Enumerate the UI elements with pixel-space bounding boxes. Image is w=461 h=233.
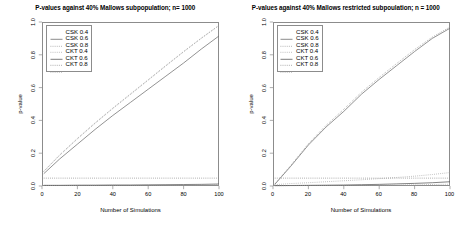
legend-right: CSK 0.4CSK 0.6CSK 0.8CKT 0.4CKT 0.6CKT 0… (277, 25, 323, 72)
x-tick-label: 0 (271, 191, 274, 197)
y-tick-label: 1.0 (30, 18, 36, 26)
x-tick-label: 20 (305, 191, 311, 197)
y-tick-label: 0.6 (261, 84, 267, 92)
x-tick-label: 100 (214, 191, 223, 197)
legend-line-sample (280, 48, 293, 55)
y-tick-label: 0.4 (30, 117, 36, 125)
y-tick-label: 0.8 (261, 51, 267, 59)
legend-line-sample (280, 61, 293, 68)
legend-label: CKT 0.8 (296, 61, 318, 68)
legend-line-sample (50, 61, 63, 68)
chart-panel-left: P-values against 40% Mallows subpopulati… (0, 0, 231, 233)
x-tick-label: 60 (376, 191, 382, 197)
y-axis-label-left: p-value (17, 94, 23, 114)
y-tick-label: 0.0 (261, 182, 267, 190)
x-tick-label: 40 (340, 191, 346, 197)
chart-panel-right: P-values against 40% Mallows restricted … (231, 0, 461, 233)
legend-line-sample (280, 42, 293, 49)
legend-line-sample (280, 55, 293, 62)
legend-line-sample (280, 29, 293, 36)
legend-left: CSK 0.4CSK 0.6CSK 0.8CKT 0.4CKT 0.6CKT 0… (46, 25, 92, 72)
legend-line-sample (50, 35, 63, 42)
x-tick-label: 100 (445, 191, 454, 197)
y-tick-label: 0.8 (30, 51, 36, 59)
legend-item: CKT 0.8 (50, 61, 89, 68)
series-line (274, 182, 449, 186)
legend-line-sample (50, 55, 63, 62)
legend-line-sample (50, 29, 63, 36)
legend-line-sample (280, 35, 293, 42)
y-tick-label: 0.2 (261, 149, 267, 157)
y-tick-label: 0.4 (261, 117, 267, 125)
x-tick-label: 80 (180, 191, 186, 197)
x-axis-label-left: Number of Simulations (100, 207, 161, 213)
legend-line-sample (50, 42, 63, 49)
x-tick-label: 80 (411, 191, 417, 197)
y-tick-label: 0.2 (30, 149, 36, 157)
y-tick-label: 0.0 (30, 182, 36, 190)
legend-item: CKT 0.8 (280, 61, 319, 68)
y-tick-label: 0.6 (30, 84, 36, 92)
y-axis-label-right: p-value (248, 94, 254, 114)
figure: P-values against 40% Mallows subpopulati… (0, 0, 461, 233)
x-tick-label: 0 (40, 191, 43, 197)
x-tick-label: 20 (74, 191, 80, 197)
y-tick-label: 1.0 (261, 18, 267, 26)
x-tick-label: 60 (145, 191, 151, 197)
x-axis-label-right: Number of Simulations (331, 207, 392, 213)
series-line (44, 184, 219, 185)
legend-line-sample (50, 48, 63, 55)
legend-label: CKT 0.8 (66, 61, 88, 68)
x-tick-label: 40 (110, 191, 116, 197)
